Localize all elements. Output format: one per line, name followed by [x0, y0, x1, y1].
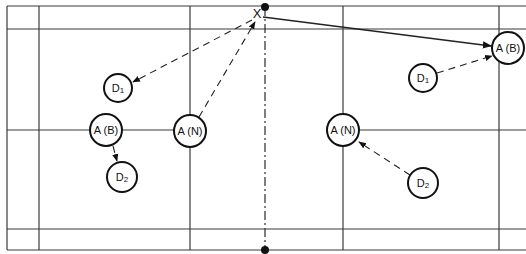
player-ab-left: A (B) — [90, 114, 122, 146]
net — [261, 3, 269, 254]
arrow-d1-right-to-ab-right — [437, 56, 492, 73]
player-d2-left: D2 — [107, 162, 137, 192]
player-ab-right: A (B) — [492, 32, 524, 64]
arrow-d2-right-to-an-right — [359, 142, 410, 175]
svg-text:A (N): A (N) — [330, 124, 355, 136]
player-d1-right: D1 — [409, 64, 437, 92]
court-lines — [7, 6, 526, 250]
badminton-court-diagram: X D1 A (B) A (N) D2 A (B) D1 A (N) D2 — [0, 0, 526, 254]
player-an-right: A (N) — [327, 114, 359, 146]
arrow-an-left-to-x — [199, 22, 255, 117]
player-an-left: A (N) — [174, 115, 206, 147]
net-post-top — [261, 3, 269, 11]
arrow-ab-left-to-d2-left — [113, 146, 117, 161]
svg-text:A (B): A (B) — [94, 124, 118, 136]
net-post-bottom — [261, 246, 269, 254]
arrow-x-to-ab-right — [263, 17, 491, 46]
player-d2-right: D2 — [408, 168, 438, 198]
svg-text:A (B): A (B) — [496, 42, 520, 54]
svg-text:A (N): A (N) — [177, 125, 202, 137]
player-d1-left: D1 — [104, 74, 132, 102]
arrows — [113, 17, 492, 175]
shuttle-x-mark: X — [253, 6, 262, 21]
